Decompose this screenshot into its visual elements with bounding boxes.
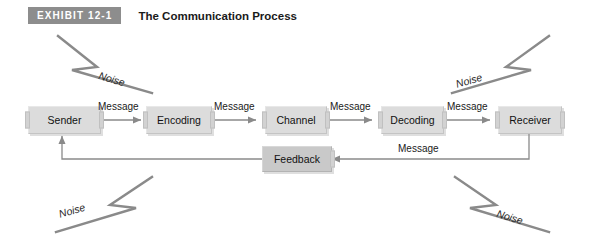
node-tab-right-icon [442,112,447,129]
exhibit-figure: EXHIBIT 12-1 The Communication Process [0,0,590,242]
node-tab-left-icon [495,112,500,129]
node-decoding-label: Decoding [390,114,434,126]
node-receiver[interactable]: Receiver [498,106,562,134]
node-tab-right-icon [560,112,565,129]
node-channel[interactable]: Channel [265,106,327,134]
node-channel-label: Channel [276,114,315,126]
edge-label-channel-decoding: Message [330,101,371,112]
node-sender[interactable]: Sender [28,106,101,134]
node-tab-right-icon [99,112,104,129]
edge-label-sender-encoding: Message [98,101,139,112]
edge-label-decoding-receiver: Message [447,101,488,112]
line-feedback-to-sender [62,136,262,159]
node-tab-left-icon [25,112,30,129]
node-sender-label: Sender [48,114,82,126]
node-tab-right-icon [210,112,215,129]
node-tab-left-icon [378,112,383,129]
node-encoding-label: Encoding [157,114,201,126]
edge-label-receiver-feedback: Message [398,143,439,154]
noise-bolt-top-left [58,36,152,93]
node-tab-right-icon [325,112,330,129]
node-encoding[interactable]: Encoding [146,106,212,134]
node-tab-left-icon [262,112,267,129]
edge-label-encoding-channel: Message [214,101,255,112]
node-tab-right-icon [330,151,335,168]
node-feedback[interactable]: Feedback [262,146,332,172]
node-decoding[interactable]: Decoding [381,106,444,134]
node-receiver-label: Receiver [509,114,550,126]
noise-bolt-bottom-right [455,177,549,232]
node-tab-left-icon [143,112,148,129]
node-feedback-label: Feedback [274,153,320,165]
